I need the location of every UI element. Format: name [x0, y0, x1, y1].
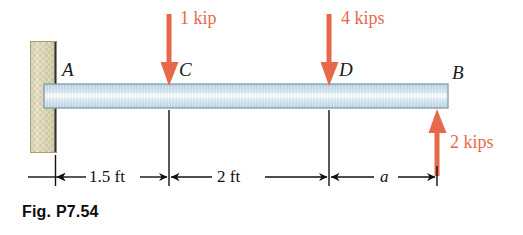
point-label-D: D	[339, 60, 353, 79]
dimension-label-a: a	[380, 168, 389, 185]
horizontal-beam	[44, 84, 448, 108]
point-label-A: A	[62, 60, 74, 79]
dimension-label-2-ft: 2 ft	[217, 168, 240, 185]
force-arrow-up-at-B	[429, 109, 447, 176]
dimension-label-1-5-ft: 1.5 ft	[89, 168, 125, 185]
force-label-4-kips: 4 kips	[341, 9, 385, 27]
point-label-C: C	[179, 60, 192, 79]
point-label-B: B	[452, 63, 464, 82]
beam-diagram-figure: A C D B 1 kip 4 kips 2 kips 1.5 ft 2 ft …	[0, 0, 523, 235]
force-label-2-kips: 2 kips	[450, 133, 494, 151]
force-label-1-kip: 1 kip	[180, 9, 217, 27]
figure-caption: Fig. P7.54	[22, 203, 99, 221]
beam-diagram-canvas	[0, 0, 523, 235]
force-arrow-down-at-D	[321, 14, 339, 86]
force-arrow-down-at-C	[161, 14, 179, 86]
